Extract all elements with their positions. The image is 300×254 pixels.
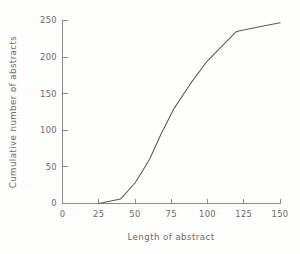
chart-figure: 0 50 100 150 200 250 0 25 50 75 100 125 …: [0, 0, 300, 254]
y-tick-label: 250: [40, 15, 57, 25]
line-chart: 0 50 100 150 200 250 0 25 50 75 100 125 …: [0, 0, 300, 254]
x-tick-label: 25: [93, 209, 104, 219]
y-tick-label: 150: [40, 89, 57, 99]
x-tick-label: 125: [235, 209, 252, 219]
x-tick-label: 75: [166, 209, 177, 219]
y-axis-title: Cumulative number of abstracts: [8, 36, 18, 189]
x-tick-label: 100: [199, 209, 216, 219]
x-axis-title: Length of abstract: [128, 232, 215, 242]
x-tick-label: 0: [60, 209, 66, 219]
x-tick-label: 150: [271, 209, 288, 219]
y-tick-label: 200: [40, 52, 57, 62]
y-tick-label: 100: [40, 125, 57, 135]
x-tick-label: 50: [129, 209, 140, 219]
y-tick-label: 50: [46, 162, 57, 172]
y-tick-label: 0: [51, 198, 57, 208]
